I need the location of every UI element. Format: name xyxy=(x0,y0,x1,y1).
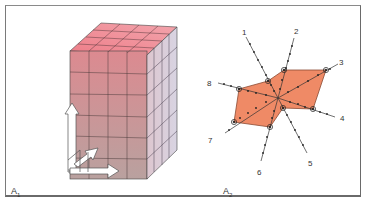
panel-label-a1-sub: 1 xyxy=(17,192,20,198)
star-diagram: 1 2 3 4 5 6 7 8 xyxy=(207,27,345,177)
axis-label-5: 5 xyxy=(308,159,313,168)
axis-label-8: 8 xyxy=(207,79,212,88)
panel-label-a1: A1 xyxy=(11,186,20,198)
axis-label-6: 6 xyxy=(257,168,262,177)
axis-label-4: 4 xyxy=(340,114,345,123)
panel-label-a2: A2 xyxy=(223,186,232,198)
axis-label-7: 7 xyxy=(208,136,213,145)
axis-label-1: 1 xyxy=(242,28,247,37)
figure-canvas: 1 2 3 4 5 6 7 8 xyxy=(0,0,366,206)
cell-block-diagram xyxy=(65,23,177,179)
axis-label-2: 2 xyxy=(294,27,299,36)
radial-axes xyxy=(218,37,338,161)
axis-label-3: 3 xyxy=(339,58,344,67)
panel-label-a2-sub: 2 xyxy=(229,192,232,198)
